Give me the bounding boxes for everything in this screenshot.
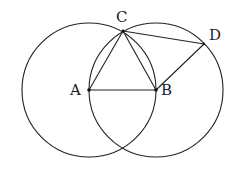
point-d	[203, 43, 205, 45]
point-c	[122, 30, 125, 33]
label-a: A	[69, 81, 81, 99]
segment-bc	[123, 31, 156, 90]
point-b	[154, 88, 158, 92]
label-b: B	[161, 81, 172, 99]
label-c: C	[116, 8, 127, 26]
geometry-diagram: A B C D	[0, 0, 235, 169]
label-d: D	[209, 26, 221, 44]
segment-ac	[89, 31, 123, 90]
point-a	[87, 88, 91, 92]
